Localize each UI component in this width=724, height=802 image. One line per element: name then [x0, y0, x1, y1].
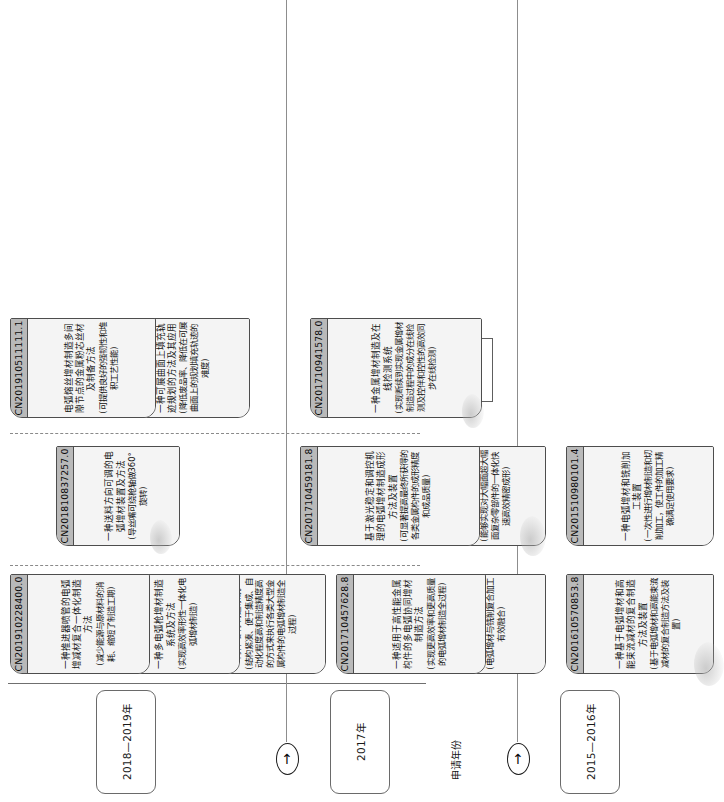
period-label-text: 2017年 [353, 723, 368, 761]
timeline-arrow-2: ↑ [507, 743, 530, 775]
patent-note: (可显著提高最终所获得的各类金属构件的成形精度和成品质量) [399, 450, 432, 542]
patent-card[interactable]: CN201810837257.0 一种送料方向可调的电弧增材装置及方法 (导丝嘴… [56, 446, 180, 546]
patent-title: 一种推进器喷管的电弧增减材复合一体化制造方法 [61, 578, 95, 670]
patent-note: (导丝嘴可绕枪轴做360°旋转) [127, 450, 149, 542]
timeline-arrow-1: ↑ [276, 743, 299, 775]
patent-note: (实现更高效率和更高质量的电弧增材制造全过程) [426, 578, 448, 670]
arrow-glyph: ↑ [281, 752, 293, 766]
patent-card-body: 一种适用于高性能金属构件的多电弧协同增材制造方法 (实现更高效率和更高质量的电弧… [354, 575, 485, 673]
patent-number: CN201910511111.1 [11, 319, 28, 417]
period-label-2018-2019: 2018—2019年 [96, 690, 156, 794]
patent-card-body: 一种基于电弧增材和高能束流减材的复合制造方法及装置 (基于电弧增材和高能束流减材… [584, 575, 713, 673]
patent-note: (实现断续到实现金属增材制造过程中的成分在线检测及控伴和控性的高效同步在线检测) [394, 322, 438, 414]
patent-number: CN201910228400.0 [11, 575, 28, 673]
period-label-text: 2015—2016年 [583, 704, 598, 780]
patent-note: (一次性进行增材制造和切削加工，使工件的加工精确满足使用要求) [643, 450, 676, 542]
patent-number: CN201710457628.8 [337, 575, 354, 673]
axis-title: 申请年份 [448, 740, 463, 780]
patent-note: (可提供良好的强韧性和堆积工艺性能) [98, 322, 120, 414]
patent-number: CN201810837257.0 [57, 447, 74, 545]
patent-card[interactable]: CN201910511111.1 电弧熔丝增材制造多间隙节点的金属粉芯丝材及制备… [10, 318, 156, 418]
patent-title: 一种基于电弧增材和高能束流减材的复合制造方法及装置 [615, 578, 649, 670]
patent-number: CN201710941578.0 [311, 319, 328, 417]
patent-note: (降低废品率、降低在可展曲面上的规划填充轨迹的难度) [178, 322, 211, 414]
patent-note: (电弧增材与铣削复合加工有效融合) [485, 578, 507, 670]
period-label-2015-2016: 2015—2016年 [560, 690, 620, 794]
patent-note: (实现高效率形性一体化电弧增材制造) [177, 578, 199, 670]
lane-separator-1 [10, 565, 420, 566]
timeline-axis [8, 683, 426, 684]
patent-note: (基于电弧增材和高能束流减材的复合制造方法及装置) [649, 578, 682, 670]
patent-card[interactable]: CN201710457628.8 一种适用于高性能金属构件的多电弧协同增材制造方… [336, 574, 486, 674]
period-label-text: 2018—2019年 [119, 704, 134, 780]
patent-card[interactable]: CN201610570853.8 一种基于电弧增材和高能束流减材的复合制造方法及… [566, 574, 714, 674]
patent-title: 一种送料方向可调的电弧增材装置及方法 [104, 450, 127, 542]
patent-title: 基于激光稳定和调控机理的电弧增材制造成形方法及装置 [365, 450, 399, 542]
period-label-2017: 2017年 [330, 690, 390, 794]
patent-note: (结构紧凑、便于集成、自动化程度高和制造精度高的方式来执行各类大型金属构件的电弧… [244, 578, 299, 670]
patent-card[interactable]: CN201510980101.4 一种电弧增材和铣削加工装置 (一次性进行增材制… [566, 446, 714, 546]
patent-note: (减少能源与原材料的消耗、缩短了制造工期) [95, 578, 117, 670]
lane-separator-2 [10, 433, 420, 434]
patent-title: 一种电弧增材和铣削加工装置 [621, 450, 644, 542]
patent-card[interactable]: CN201910228400.0 一种推进器喷管的电弧增减材复合一体化制造方法 … [10, 574, 150, 674]
patent-number: CN201710459181.8 [301, 447, 318, 545]
patent-note: (能够实现对大幅面超大幅面复杂零部件的一体化快速高效精密成形) [479, 450, 512, 542]
patent-number: CN201510980101.4 [567, 447, 584, 545]
patent-card-body: 一种推进器喷管的电弧增减材复合一体化制造方法 (减少能源与原材料的消耗、缩短了制… [28, 575, 149, 673]
patent-card[interactable]: CN201710941578.0 一种金属增材制造及在线检测系统 (实现断续到实… [310, 318, 482, 418]
patent-card-body: 一种送料方向可调的电弧增材装置及方法 (导丝嘴可绕枪轴做360°旋转) [74, 447, 179, 545]
patent-card-body: 基于激光稳定和调控机理的电弧增材制造成形方法及装置 (可显著提高最终所获得的各类… [318, 447, 479, 545]
patent-title: 一种适用于高性能金属构件的多电弧协同增材制造方法 [392, 578, 426, 670]
patent-title: 一种可展曲面上填充轨迹规划的方法及其应用 [156, 322, 179, 414]
patent-title: 一种金属增材制造及在线检测系统 [371, 322, 394, 414]
patent-card-body: 电弧熔丝增材制造多间隙节点的金属粉芯丝材及制备方法 (可提供良好的强韧性和堆积工… [28, 319, 155, 417]
arrow-glyph: ↑ [512, 752, 524, 766]
patent-title: 电弧熔丝增材制造多间隙节点的金属粉芯丝材及制备方法 [64, 322, 98, 414]
patent-card-body: 一种电弧增材和铣削加工装置 (一次性进行增材制造和切削加工，使工件的加工精确满足… [584, 447, 713, 545]
patent-title: 一种多电弧枪增材制造系统及方法 [154, 578, 177, 670]
patent-number: CN201610570853.8 [567, 575, 584, 673]
patent-card[interactable]: CN201710459181.8 基于激光稳定和调控机理的电弧增材制造成形方法及… [300, 446, 480, 546]
patent-card-body: 一种金属增材制造及在线检测系统 (实现断续到实现金属增材制造过程中的成分在线检测… [328, 319, 481, 417]
